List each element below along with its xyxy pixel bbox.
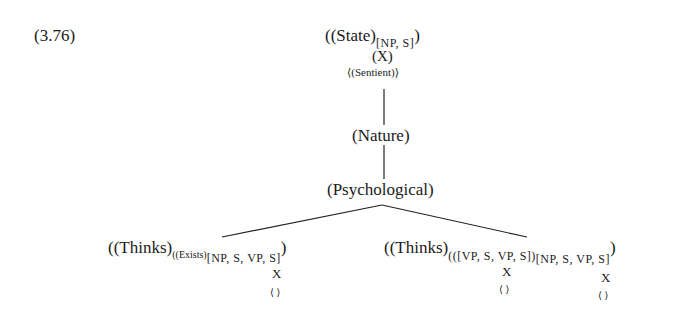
left-leaf-marker: X xyxy=(272,266,281,282)
left-leaf-node: ((Thinks)((Exists)[NP, S, VP, S]) xyxy=(108,238,287,258)
left-leaf-subscript: [NP, S, VP, S] xyxy=(207,251,281,265)
right-leaf-subscript2: [NP, S, VP, S] xyxy=(536,252,610,266)
edge-psychological-right xyxy=(382,205,527,237)
right-leaf-label: ((Thinks) xyxy=(384,238,448,257)
right-leaf-marker2: X xyxy=(601,270,610,286)
root-node: ((State)[NP, S]) xyxy=(325,26,420,46)
root-feature: ⟨(Sentient)⟩ xyxy=(347,66,399,79)
tree-edges xyxy=(0,0,690,315)
edge-psychological-left xyxy=(222,205,382,237)
left-leaf-label: ((Thinks) xyxy=(108,238,172,257)
nature-node: (Nature) xyxy=(352,126,410,146)
right-leaf-node: ((Thinks)(([VP, S, VP, S])[NP, S, VP, S]… xyxy=(384,238,616,258)
root-marker: (X) xyxy=(372,48,393,65)
left-leaf-subscript-small: ((Exists) xyxy=(172,249,206,260)
right-leaf-feature1: ⟨ ⟩ xyxy=(499,284,509,295)
psychological-node: (Psychological) xyxy=(327,180,434,200)
right-leaf-marker1: X xyxy=(502,264,511,280)
left-leaf-feature: ⟨ ⟩ xyxy=(270,287,280,298)
right-leaf-subscript1: (([VP, S, VP, S]) xyxy=(448,249,536,263)
example-number: (3.76) xyxy=(34,26,75,46)
root-close: ) xyxy=(414,26,420,45)
right-leaf-feature2: ⟨ ⟩ xyxy=(598,290,608,301)
root-label: ((State) xyxy=(325,26,376,45)
right-leaf-close: ) xyxy=(610,238,616,257)
left-leaf-close: ) xyxy=(281,238,287,257)
